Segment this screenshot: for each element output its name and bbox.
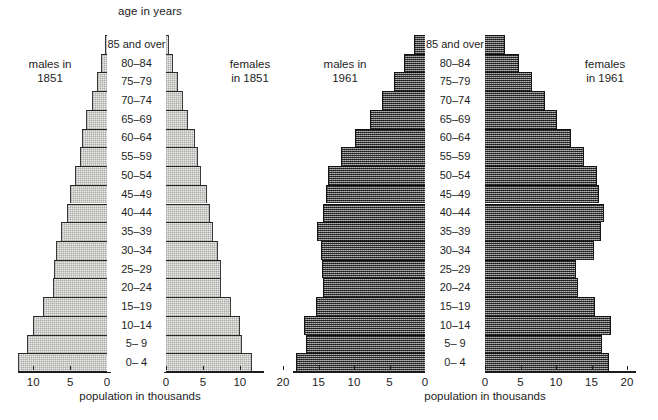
xtick-right-10-label: 10 xyxy=(227,376,253,388)
bar-female-14 xyxy=(485,297,595,316)
population-pyramid-1961: males in 1961 females in 1961 85 and ove… xyxy=(285,0,658,420)
bar-male-14 xyxy=(316,297,425,316)
bar-female-8 xyxy=(485,185,599,204)
xtick-right-0-label: 0 xyxy=(153,376,179,388)
age-label-6: 55–59 xyxy=(93,150,180,162)
age-label-2: 75–79 xyxy=(411,75,499,87)
pyramid-plot-1851: 85 and over80–8475–7970–7465–6960–6455–5… xyxy=(0,35,300,372)
xtick-right-5-tick xyxy=(203,366,204,370)
xtick-left-10-label: 10 xyxy=(341,376,367,388)
age-label-1: 80–84 xyxy=(411,57,499,69)
xtick-right-5-tick xyxy=(521,366,522,370)
bar-male-10 xyxy=(317,222,425,241)
xtick-right-15-tick xyxy=(592,366,593,370)
axis-line-1851-left xyxy=(18,371,111,373)
bar-male-9 xyxy=(323,204,425,223)
xtick-right-10-tick xyxy=(556,366,557,370)
xtick-left-5-label: 5 xyxy=(377,376,403,388)
bar-male-13 xyxy=(323,278,425,297)
xtick-right-0-label: 0 xyxy=(472,376,498,388)
age-label-10: 35–39 xyxy=(411,225,499,237)
xtick-right-5-label: 5 xyxy=(508,376,534,388)
age-label-4: 65–69 xyxy=(93,113,180,125)
age-label-12: 25–29 xyxy=(93,263,180,275)
bar-female-9 xyxy=(485,204,604,223)
age-label-14: 15–19 xyxy=(411,300,499,312)
age-label-3: 70–74 xyxy=(411,94,499,106)
bar-female-17 xyxy=(485,353,609,372)
age-label-15: 10–14 xyxy=(93,319,180,331)
xtick-right-10-tick xyxy=(240,366,241,370)
bar-male-16 xyxy=(306,335,425,354)
chart-top-title: age in years xyxy=(55,5,245,17)
bar-female-11 xyxy=(485,241,594,260)
age-label-7: 50–54 xyxy=(411,169,499,181)
axis-line-1851-right xyxy=(164,371,264,373)
xtick-right-20-tick xyxy=(627,366,628,370)
bar-female-10 xyxy=(485,222,601,241)
xtick-left-10-label: 10 xyxy=(20,376,46,388)
xtick-left-15-label: 15 xyxy=(306,376,332,388)
age-label-3: 70–74 xyxy=(93,94,180,106)
xtick-left-5-tick xyxy=(70,366,71,370)
age-label-0: 85 and over xyxy=(93,38,180,50)
axis-title-1851: population in thousands xyxy=(30,390,250,402)
age-label-13: 20–24 xyxy=(93,281,180,293)
xtick-left-5-label: 5 xyxy=(57,376,83,388)
xtick-right-20-label: 20 xyxy=(614,376,640,388)
age-label-13: 20–24 xyxy=(411,281,499,293)
age-label-5: 60–64 xyxy=(93,131,180,143)
xtick-left-20-tick xyxy=(283,366,284,370)
bar-male-15 xyxy=(304,316,425,335)
age-label-14: 15–19 xyxy=(93,300,180,312)
bar-female-7 xyxy=(485,166,597,185)
age-label-4: 65–69 xyxy=(411,113,499,125)
age-label-1: 80–84 xyxy=(93,57,180,69)
age-label-12: 25–29 xyxy=(411,263,499,275)
age-label-7: 50–54 xyxy=(93,169,180,181)
age-label-16: 5– 9 xyxy=(93,337,180,349)
xtick-left-0-label: 0 xyxy=(412,376,438,388)
age-label-11: 30–34 xyxy=(411,244,499,256)
age-label-8: 45–49 xyxy=(93,188,180,200)
axis-title-1961: population in thousands xyxy=(375,390,595,402)
age-label-9: 40–44 xyxy=(411,206,499,218)
bar-female-16 xyxy=(485,335,602,354)
age-label-11: 30–34 xyxy=(93,244,180,256)
age-label-9: 40–44 xyxy=(93,206,180,218)
age-label-6: 55–59 xyxy=(411,150,499,162)
bar-male-12 xyxy=(322,260,425,279)
bar-male-17 xyxy=(296,353,425,372)
xtick-right-5-label: 5 xyxy=(190,376,216,388)
pyramid-plot-1961: 85 and over80–8475–7970–7465–6960–6455–5… xyxy=(285,35,658,372)
age-label-16: 5– 9 xyxy=(411,337,499,349)
population-pyramid-1851: age in years males in 1851 females in 18… xyxy=(0,0,300,420)
xtick-left-5-tick xyxy=(390,366,391,370)
age-label-8: 45–49 xyxy=(411,188,499,200)
xtick-right-10-label: 10 xyxy=(543,376,569,388)
bar-female-15 xyxy=(485,316,611,335)
xtick-left-10-tick xyxy=(33,366,34,370)
xtick-left-15-tick xyxy=(319,366,320,370)
axis-line-1961-left xyxy=(293,371,425,373)
axis-line-1961-right xyxy=(485,371,636,373)
age-label-5: 60–64 xyxy=(411,131,499,143)
xtick-left-0-label: 0 xyxy=(94,376,120,388)
age-label-15: 10–14 xyxy=(411,319,499,331)
age-label-17: 0– 4 xyxy=(411,356,499,368)
bar-female-6 xyxy=(485,147,584,166)
xtick-right-15-label: 15 xyxy=(579,376,605,388)
age-label-2: 75–79 xyxy=(93,75,180,87)
age-label-10: 35–39 xyxy=(93,225,180,237)
xtick-left-10-tick xyxy=(354,366,355,370)
age-label-17: 0– 4 xyxy=(93,356,180,368)
age-label-0: 85 and over xyxy=(411,38,499,50)
bar-male-11 xyxy=(321,241,425,260)
xtick-left-20-label: 20 xyxy=(270,376,296,388)
